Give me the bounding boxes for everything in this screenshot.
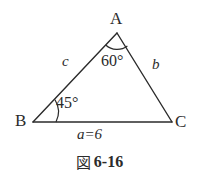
side-label-c: c — [62, 54, 69, 69]
figure-caption: 図6-16 — [0, 154, 199, 171]
caption-figure-number: 6-16 — [94, 153, 123, 170]
vertex-label-a: A — [110, 10, 122, 27]
side-label-a: a=6 — [77, 127, 102, 142]
vertex-label-b: B — [15, 112, 26, 129]
angle-label-b: 45° — [56, 95, 78, 111]
side-label-b: b — [152, 57, 160, 72]
angle-label-a: 60° — [101, 53, 123, 69]
figure-container: A B C c b 60° 45° a=6 図6-16 — [0, 0, 199, 180]
caption-figure-mark: 図 — [76, 154, 91, 172]
vertex-label-c: C — [175, 113, 186, 130]
side-b-line — [117, 33, 172, 122]
